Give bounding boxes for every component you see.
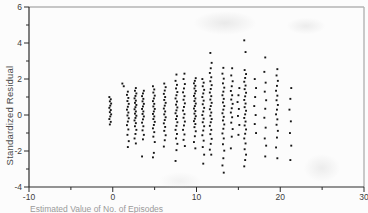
data-point (255, 114, 257, 116)
x-axis-title: Estimated Value of No. of Episodes (30, 204, 163, 213)
data-point (232, 103, 234, 105)
data-point (154, 95, 156, 97)
data-point (163, 113, 165, 115)
y-tick-label: -2 (14, 146, 22, 156)
data-point (141, 95, 143, 97)
data-point (223, 138, 225, 140)
data-point (143, 90, 145, 92)
data-point (210, 121, 212, 123)
data-point (222, 94, 224, 96)
data-point (176, 91, 178, 93)
data-point (237, 115, 239, 117)
data-point (127, 146, 129, 148)
data-point (141, 108, 143, 110)
data-point (183, 117, 185, 119)
data-point (253, 105, 255, 107)
data-point (231, 116, 233, 118)
data-point (126, 124, 128, 126)
data-point (134, 102, 136, 104)
data-point (244, 77, 246, 79)
data-point (201, 96, 203, 98)
data-point (223, 116, 225, 118)
data-point (222, 67, 224, 69)
data-point (231, 85, 233, 87)
data-point (165, 134, 167, 136)
data-point (175, 160, 177, 162)
data-point (194, 88, 196, 90)
data-point (223, 87, 225, 89)
data-point (209, 108, 211, 110)
data-point (184, 83, 186, 85)
data-point (164, 119, 166, 121)
data-point (121, 83, 123, 85)
data-point (222, 143, 224, 145)
data-point (142, 111, 144, 113)
data-point (203, 82, 205, 84)
data-point (255, 87, 257, 89)
data-point (195, 77, 197, 79)
data-point (184, 95, 186, 97)
data-point (290, 120, 292, 122)
data-point (289, 109, 291, 111)
data-point (231, 136, 233, 138)
data-point (142, 113, 144, 115)
data-point (153, 103, 155, 105)
data-point (183, 99, 185, 101)
data-point (245, 121, 247, 123)
data-point (152, 136, 154, 138)
data-point (109, 124, 111, 126)
data-point (265, 82, 267, 84)
data-point (142, 118, 144, 120)
data-point (109, 111, 111, 113)
data-point (135, 115, 137, 117)
data-point (175, 98, 177, 100)
data-point (126, 94, 128, 96)
data-point (222, 120, 224, 122)
x-tick-label: 10 (192, 192, 202, 202)
data-point (254, 78, 256, 80)
data-point (244, 125, 246, 127)
data-point (195, 90, 197, 92)
data-point (193, 82, 195, 84)
data-point (276, 124, 278, 126)
data-point (176, 115, 178, 117)
data-point (184, 134, 186, 136)
data-point (222, 102, 224, 104)
data-point (128, 103, 130, 105)
data-point (277, 104, 279, 106)
data-point (182, 91, 184, 93)
data-point (127, 129, 129, 131)
data-point (165, 102, 167, 104)
data-point (255, 132, 257, 134)
data-point (232, 80, 234, 82)
data-point (142, 125, 144, 127)
data-point (127, 97, 129, 99)
data-point (143, 116, 145, 118)
data-point (134, 108, 136, 110)
data-point (153, 98, 155, 100)
data-point (276, 157, 278, 159)
data-point (202, 103, 204, 105)
data-point (202, 121, 204, 123)
data-point (164, 90, 166, 92)
data-point (154, 141, 156, 143)
data-point (134, 120, 136, 122)
data-point (193, 108, 195, 110)
data-point (195, 130, 197, 132)
data-point (210, 88, 212, 90)
data-point (245, 103, 247, 105)
data-point (109, 116, 111, 118)
data-point (135, 133, 137, 135)
data-point (176, 133, 178, 135)
data-point (127, 100, 129, 102)
data-point (152, 85, 154, 87)
data-point (210, 143, 212, 145)
data-point (152, 127, 154, 129)
data-point (176, 121, 178, 123)
data-point (202, 93, 204, 95)
data-point (211, 138, 213, 140)
data-point (163, 130, 165, 132)
data-point (223, 150, 225, 152)
data-point (134, 113, 136, 115)
data-point (244, 69, 246, 71)
